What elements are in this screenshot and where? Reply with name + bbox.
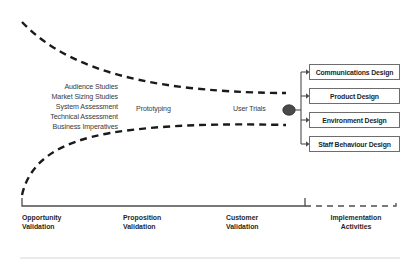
output-box-label: Communications Design: [316, 69, 394, 76]
stage-note-prototyping: Prototyping: [136, 105, 171, 113]
phase-label-line1: Opportunity: [22, 213, 61, 222]
validation-phase-bracket: [22, 198, 305, 206]
phase-label-line2: Validation: [123, 222, 161, 231]
output-box-environment-design[interactable]: Environment Design: [309, 112, 400, 128]
phase-label-line2: Activities: [318, 222, 394, 231]
funnel-convergence-node-icon: [283, 105, 295, 115]
phase-label-customer-validation: Customer Validation: [226, 213, 259, 231]
funnel-diagram: Audience Studies Market Sizing Studies S…: [0, 0, 418, 272]
phase-label-line2: Validation: [22, 222, 61, 231]
phase-label-proposition-validation: Proposition Validation: [123, 213, 161, 231]
output-box-staff-behaviour-design[interactable]: Staff Behaviour Design: [309, 136, 400, 152]
list-item: Business Imperatives: [10, 122, 118, 132]
funnel-lower-curve: [22, 124, 286, 195]
list-item: Market Sizing Studies: [10, 92, 118, 102]
output-box-product-design[interactable]: Product Design: [309, 88, 400, 104]
output-box-label: Product Design: [330, 93, 379, 100]
output-box-label: Staff Behaviour Design: [318, 141, 391, 148]
list-item: Audience Studies: [10, 82, 118, 92]
phase-label-line1: Proposition: [123, 213, 161, 222]
phase-label-implementation-activities: Implementation Activities: [318, 213, 394, 231]
phase-label-line2: Validation: [226, 222, 259, 231]
output-box-communications-design[interactable]: Communications Design: [309, 64, 400, 80]
phase-label-opportunity-validation: Opportunity Validation: [22, 213, 61, 231]
list-item: Technical Assessment: [10, 112, 118, 122]
output-box-label: Environment Design: [322, 117, 386, 124]
implementation-phase-bracket: [305, 198, 396, 206]
stage-note-user-trials: User Trials: [233, 105, 266, 113]
list-item: System Assessment: [10, 102, 118, 112]
funnel-inputs-list: Audience Studies Market Sizing Studies S…: [10, 82, 118, 132]
phase-label-line1: Implementation: [318, 213, 394, 222]
phase-label-line1: Customer: [226, 213, 259, 222]
